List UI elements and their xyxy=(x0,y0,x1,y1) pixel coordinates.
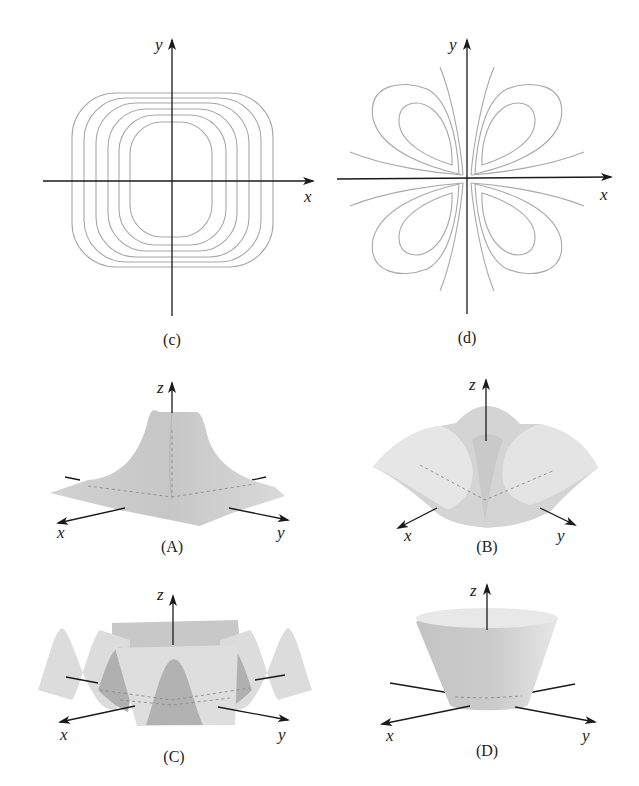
y-axis xyxy=(229,508,288,520)
panel-d-contour: y x (d) xyxy=(337,35,611,347)
x-axis-back xyxy=(65,477,80,480)
x-axis-label: x xyxy=(599,185,608,204)
x-axis xyxy=(60,706,135,722)
x-axis xyxy=(337,177,611,179)
panel-c-contour: y x (c) xyxy=(43,35,313,349)
x-axis-label: x xyxy=(59,725,68,744)
y-axis-label: y xyxy=(276,725,286,744)
surface xyxy=(50,410,285,526)
y-axis-label: y xyxy=(275,523,285,542)
panel-caption: (c) xyxy=(163,331,181,349)
z-axis-label: z xyxy=(156,378,164,397)
figure-canvas: y x (c) y x (d) xyxy=(0,0,639,786)
panel-caption: (D) xyxy=(476,742,498,760)
panel-D-surface: z x y (D) xyxy=(382,581,595,760)
panel-caption: (d) xyxy=(458,329,477,347)
y-axis xyxy=(540,508,575,525)
z-axis-label: z xyxy=(469,581,477,600)
x-axis-label: x xyxy=(385,726,394,745)
x-axis-label: x xyxy=(56,523,65,542)
x-axis-label: x xyxy=(403,526,412,545)
y-axis-label: y xyxy=(555,526,565,545)
y-axis-label: y xyxy=(580,726,590,745)
x-axis-back xyxy=(390,683,450,693)
y-axis-label: y xyxy=(153,35,163,54)
panel-B-surface: z x y (B) xyxy=(373,375,598,556)
x-axis xyxy=(382,706,470,724)
panel-caption: (A) xyxy=(161,538,183,556)
panel-C-surface: z x y (C) xyxy=(38,585,312,766)
panel-caption: (C) xyxy=(163,748,184,766)
x-axis xyxy=(398,508,437,528)
panel-caption: (B) xyxy=(476,538,497,556)
y-axis-back xyxy=(252,477,266,480)
x-axis xyxy=(58,508,125,523)
z-axis-label: z xyxy=(156,585,164,604)
x-axis-label: x xyxy=(303,187,312,206)
y-axis xyxy=(515,707,595,722)
panel-A-surface: z x y (A) xyxy=(50,378,288,556)
z-axis-label: z xyxy=(468,375,476,394)
y-axis-back xyxy=(528,684,575,693)
y-axis-label: y xyxy=(447,35,457,54)
